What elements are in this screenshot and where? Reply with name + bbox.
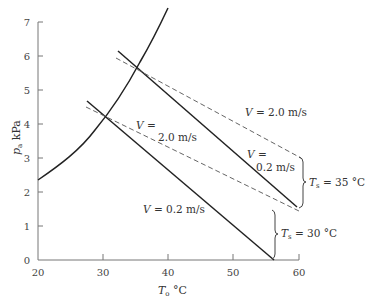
x-tick-label: 20 [32, 267, 45, 278]
y-tick-label: 4 [24, 119, 30, 130]
x-tick-label: 50 [227, 267, 240, 278]
line-ts30-v20 [86, 107, 301, 212]
y-tick-label: 7 [24, 17, 30, 28]
y-tick-label: 6 [24, 51, 30, 62]
brace-ts30 [272, 210, 278, 259]
line-ts30-v02 [87, 101, 274, 260]
y-axis-title: pa kPa [10, 120, 24, 155]
y-tick-label: 3 [24, 153, 30, 164]
y-tick-label: 5 [24, 85, 30, 96]
y-tick-label: 2 [24, 187, 30, 198]
label-v20-ts35: V = 2.0 m/s [245, 106, 307, 118]
x-tick-label: 30 [97, 267, 110, 278]
y-tick-label: 1 [24, 221, 30, 232]
x-tick-label: 40 [162, 267, 175, 278]
chart-figure: 0 1 2 3 4 5 6 7 20 30 40 50 60 To °C pa … [0, 0, 370, 299]
label-v20-ts30-line2: 2.0 m/s [158, 131, 197, 143]
y-tick-label: 0 [24, 255, 30, 266]
y-ticks [38, 22, 43, 226]
label-v02-ts30: V = 0.2 m/s [143, 203, 205, 215]
x-tick-label: 60 [293, 267, 306, 278]
x-axis-title: To °C [158, 284, 187, 298]
label-v20-ts30-line1: V = [136, 119, 156, 131]
brace-ts35 [299, 157, 306, 208]
label-ts30: Ts = 30 °C [281, 227, 337, 241]
label-v02-ts35-line1: V = [247, 148, 267, 160]
label-ts35: Ts = 35 °C [309, 176, 365, 190]
label-v02-ts35-line2: 0.2 m/s [256, 161, 295, 173]
